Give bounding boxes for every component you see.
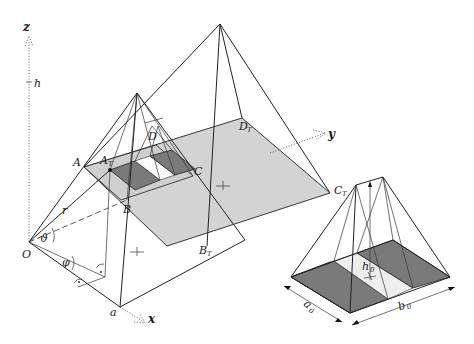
x-arrow-icon	[134, 314, 145, 323]
y-arrow-icon	[313, 130, 326, 140]
point-D-label: D	[147, 130, 157, 143]
AT-point	[108, 168, 112, 172]
phi-arc	[72, 256, 74, 270]
h-label: h	[34, 77, 41, 90]
right-angle-dot-2	[78, 281, 80, 283]
point-A-label: A	[72, 156, 81, 169]
point-BT-sub: T	[207, 250, 213, 258]
rear-edge-2	[220, 24, 242, 118]
point-BT-label: B	[198, 244, 207, 257]
right-angle-mark-1	[96, 264, 104, 268]
point-C-label: C	[194, 165, 203, 178]
h0-label: h	[362, 260, 369, 273]
x-axis-label: x	[147, 312, 156, 326]
theta-label: ϑ	[40, 232, 48, 245]
inset-height-arrow-top-icon	[368, 181, 372, 187]
pyramid-diagram: z h y x O A A T B C D B T C T D T a ϑ φ …	[0, 0, 474, 344]
theta-arc	[52, 228, 54, 242]
phi-label: φ	[62, 256, 70, 269]
b0-arrow-start-icon	[352, 320, 359, 325]
point-AT-label: A	[99, 154, 108, 167]
point-B-label: B	[122, 203, 131, 216]
cross-mark-front	[130, 247, 144, 256]
r-label: r	[62, 204, 68, 217]
z-axis-label: z	[22, 20, 31, 34]
right-angle-dot-1	[100, 271, 102, 273]
y-axis-label: y	[327, 127, 336, 141]
z-arrow-icon	[25, 36, 33, 46]
origin-label: O	[22, 248, 31, 261]
h0-sub: 0	[370, 266, 375, 274]
b0-arrow-end-icon	[448, 287, 455, 291]
point-a-label: a	[110, 306, 117, 319]
